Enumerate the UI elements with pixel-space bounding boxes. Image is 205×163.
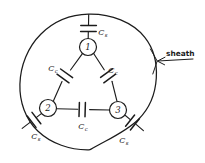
capacitor-core-core-12 [57, 69, 73, 83]
node-3[interactable]: 3 [110, 102, 127, 119]
cap-subscript-cs1: s [105, 32, 108, 38]
capacitor-label-core-sheath-2: Cs [31, 132, 41, 142]
cap-subscript-cc12: c [55, 68, 58, 74]
cap-symbol-cc12: C [48, 64, 54, 73]
svg-text:Cs: Cs [31, 132, 41, 142]
capacitance-diagram: 1 2 3 Cs Cs Cs Cc [0, 0, 205, 163]
capacitor-label-core-core-13: Cc [108, 66, 118, 76]
cap-subscript-cc23: c [85, 126, 88, 132]
branch-node2-sheath [22, 112, 41, 128]
cap-symbol-cs1: C [98, 28, 104, 37]
capacitor-label-core-sheath-3: Cs [119, 136, 129, 146]
cap-subscript-cc13: c [115, 70, 118, 76]
node-2[interactable]: 2 [40, 100, 57, 117]
node-2-label: 2 [44, 103, 50, 113]
svg-text:Cc: Cc [108, 66, 118, 76]
svg-text:Cc: Cc [48, 64, 58, 74]
lead-node1-node2 [54, 53, 83, 100]
svg-text:Cs: Cs [119, 136, 129, 146]
capacitor-label-core-sheath-1: Cs [98, 28, 108, 38]
node-1-label: 1 [85, 42, 90, 52]
sheath-label: sheath [166, 49, 194, 58]
capacitor-core-core-23 [79, 102, 85, 116]
svg-text:Cc: Cc [78, 122, 88, 132]
cap-symbol-cs2: C [31, 132, 37, 141]
node-3-label: 3 [115, 105, 120, 115]
cap-symbol-cc23: C [78, 122, 84, 131]
branch-node1-sheath [81, 15, 97, 39]
cap-symbol-cc13: C [108, 66, 114, 75]
capacitor-label-core-core-23: Cc [78, 122, 88, 132]
node-1[interactable]: 1 [80, 39, 97, 56]
lead-node1-node3 [94, 54, 117, 102]
cap-symbol-cs3: C [119, 136, 125, 145]
capacitor-label-core-core-12: Cc [48, 64, 58, 74]
cap-subscript-cs3: s [126, 140, 129, 146]
cap-subscript-cs2: s [38, 136, 41, 142]
lead-node2-node3 [57, 109, 110, 110]
svg-text:Cs: Cs [98, 28, 108, 38]
diagram-canvas: 1 2 3 Cs Cs Cs Cc [0, 0, 205, 163]
